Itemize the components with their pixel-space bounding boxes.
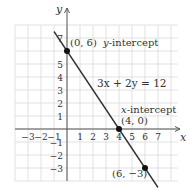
x-tick-label: 1 [77,132,83,142]
equation-label: 3x + 2y = 12 [97,77,167,89]
y-tick-label: 1 [57,112,63,122]
point-label-4-0: (4, 0) [121,115,148,126]
y-tick-label: 5 [57,60,63,70]
x-intercept-label: x-intercept [121,104,176,115]
x-tick-label: −3 [21,132,35,142]
grid-lines [15,25,178,181]
y-tick-label: 2 [57,99,63,109]
x-tick-label: 2 [90,132,96,142]
point-label-6-neg3: (6, −3) [112,168,147,179]
y-tick-label: −2 [50,151,63,161]
y-intercept-label: y-intercept [102,37,158,48]
data-point-marker [116,126,122,132]
y-tick-label: −1 [50,138,63,148]
x-tick-label: 5 [129,132,135,142]
y-tick-label: −3 [50,164,64,174]
x-axis-label: x [180,131,187,144]
y-intercept-text: -intercept [109,37,159,48]
x-tick-label: −2 [34,132,47,142]
x-tick-label: 3 [103,132,109,142]
linear-equation-graph: −3−2−11234567−3−2−1123457 x y 3x + 2y = … [0,0,192,190]
y-axis-label: y [55,3,63,16]
x-tick-label: 6 [142,132,148,142]
x-tick-label: 7 [155,132,161,142]
data-point-marker [64,48,70,54]
y-tick-label: 4 [57,73,63,83]
point-label-0-6: (0, 6) [70,37,97,48]
y-tick-label: 3 [57,86,63,96]
x-intercept-text: -intercept [127,104,177,115]
